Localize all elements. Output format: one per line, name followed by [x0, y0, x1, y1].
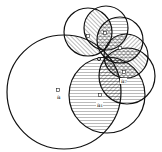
center-marker — [104, 32, 107, 35]
center-marker — [57, 89, 60, 92]
point-label: a₁ — [97, 101, 103, 108]
diagram-canvas: aa₁a₇ — [0, 0, 162, 152]
common-point — [98, 58, 101, 61]
center-marker — [123, 71, 126, 74]
point-label: a₇ — [121, 77, 128, 84]
center-marker — [87, 35, 90, 38]
center-marker — [119, 47, 122, 50]
point-label: a — [57, 93, 61, 100]
center-marker — [99, 94, 102, 97]
circle-diagram: aa₁a₇ — [0, 0, 162, 152]
hatched-regions — [64, 6, 155, 133]
